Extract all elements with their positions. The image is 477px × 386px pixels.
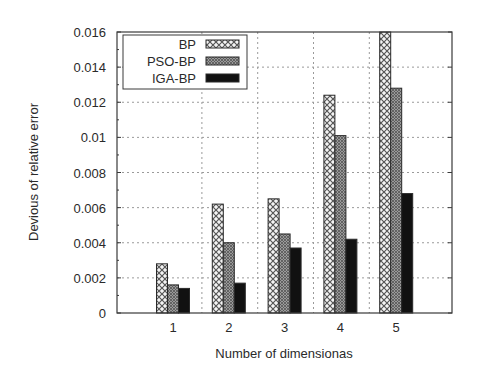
y-tick-label: 0.006 [73,201,106,216]
legend-label: PSO-BP [147,54,196,69]
x-tick-label: 3 [281,320,288,335]
bar-pso-bp-1 [168,285,179,313]
x-axis-title: Number of dimensionas [215,346,353,361]
bar-pso-bp-2 [223,243,234,313]
bar-iga-bp-1 [179,288,190,313]
bar-chart: 00.0020.0040.0060.0080.010.0120.0140.016… [0,0,477,386]
bar-iga-bp-2 [234,283,245,313]
bar-bp-2 [212,204,223,313]
y-tick-label: 0.016 [73,25,106,40]
bar-pso-bp-4 [335,136,346,313]
y-tick-label: 0.008 [73,166,106,181]
x-tick-label: 1 [169,320,176,335]
legend-swatch [206,57,239,65]
bar-iga-bp-5 [402,194,413,313]
x-tick-label: 4 [337,320,344,335]
legend-label: IGA-BP [152,71,196,86]
bar-bp-3 [268,199,279,313]
bar-pso-bp-3 [279,234,290,313]
legend-swatch [206,74,239,82]
x-tick-label: 5 [393,320,400,335]
y-tick-label: 0.014 [73,60,106,75]
legend-label: BP [179,37,196,52]
legend-swatch [206,40,239,48]
bar-bp-4 [324,95,335,313]
legend: BPPSO-BPIGA-BP [123,35,247,89]
bar-bp-5 [380,32,391,313]
x-tick-label: 2 [225,320,232,335]
y-tick-label: 0.004 [73,236,106,251]
bar-iga-bp-3 [290,248,301,313]
bar-iga-bp-4 [346,239,357,313]
y-tick-label: 0 [99,306,106,321]
y-axis-title: Devious of relative error [26,102,41,241]
y-tick-label: 0.002 [73,271,106,286]
bar-bp-1 [157,264,168,313]
y-tick-label: 0.012 [73,95,106,110]
bar-pso-bp-5 [391,88,402,313]
y-tick-label: 0.01 [81,130,106,145]
